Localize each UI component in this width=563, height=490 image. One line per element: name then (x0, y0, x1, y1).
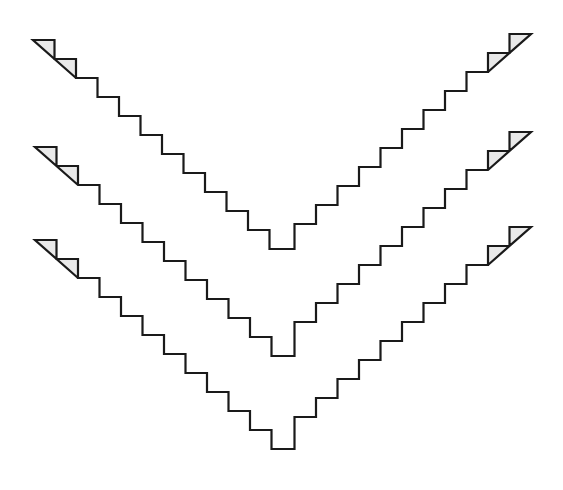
chevron-group (33, 34, 531, 449)
chevron-middle (35, 132, 531, 356)
figure-root (0, 0, 563, 490)
chevron-canvas (0, 0, 563, 490)
chevron-bottom (35, 227, 531, 449)
chevron-top (33, 34, 531, 249)
